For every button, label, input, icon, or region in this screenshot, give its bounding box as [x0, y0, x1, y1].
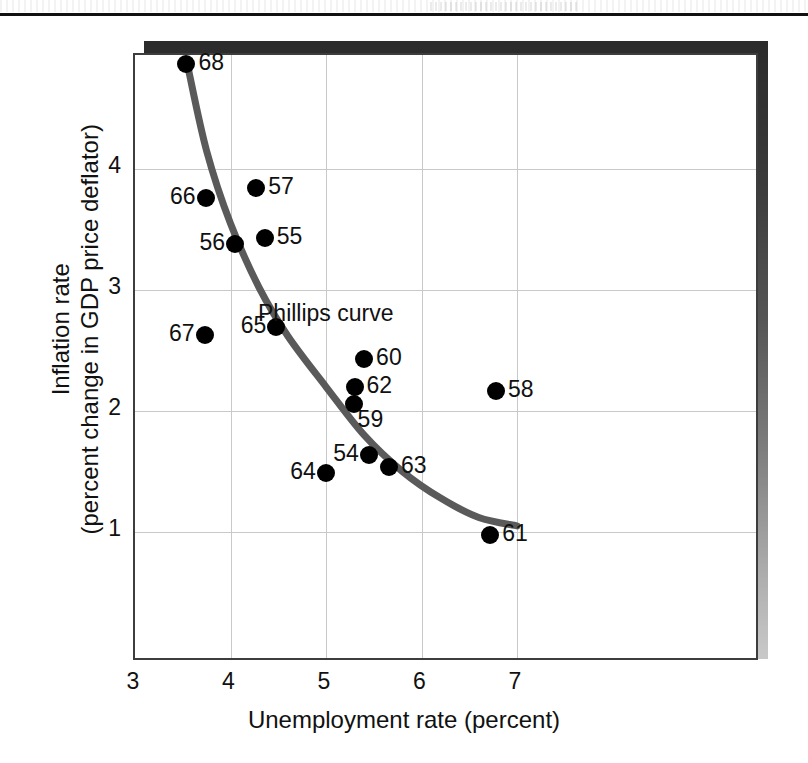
data-point: [317, 464, 335, 482]
data-point-label: 68: [198, 49, 224, 76]
data-point-label: 64: [278, 458, 316, 485]
y-axis-title-line2: (percent change in GDP price deflator): [75, 49, 104, 609]
phillips-curve-label: Phillips curve: [258, 300, 394, 327]
scan-noise-top: [0, 0, 808, 12]
data-point-label: 61: [502, 520, 528, 547]
data-point-label: 59: [358, 406, 384, 433]
x-tick-label: 6: [400, 668, 440, 695]
data-point: [197, 189, 215, 207]
data-point-label: 56: [187, 229, 225, 256]
data-point-label: 60: [376, 344, 402, 371]
data-point-label: 62: [367, 372, 393, 399]
data-point-label: 58: [508, 376, 534, 403]
data-point: [487, 382, 505, 400]
data-point-label: 67: [157, 320, 195, 347]
data-point: [196, 326, 214, 344]
x-tick-label: 3: [113, 668, 153, 695]
x-axis-title: Unemployment rate (percent): [0, 706, 808, 734]
plot-area: [133, 53, 758, 660]
y-axis-title-line1: Inflation rate: [46, 49, 75, 609]
x-tick-label: 5: [304, 668, 344, 695]
data-point: [481, 526, 499, 544]
data-point-label: 57: [268, 173, 294, 200]
data-point: [380, 458, 398, 476]
y-axis-title: Inflation rate (percent change in GDP pr…: [46, 49, 105, 609]
scan-noise-top-right: [430, 2, 580, 11]
data-point-label: 54: [321, 440, 359, 467]
x-tick-label: 7: [495, 668, 535, 695]
data-point-label: 63: [401, 452, 427, 479]
data-point-label: 66: [158, 183, 196, 210]
data-point: [247, 179, 265, 197]
phillips-curve: [135, 55, 760, 662]
data-point: [346, 378, 364, 396]
x-tick-label: 4: [209, 668, 249, 695]
data-point: [360, 446, 378, 464]
data-point-label: 55: [277, 223, 303, 250]
figure-root: 1234 34567 68665756556765606259585463646…: [0, 0, 808, 763]
page-top-rule: [0, 13, 808, 16]
